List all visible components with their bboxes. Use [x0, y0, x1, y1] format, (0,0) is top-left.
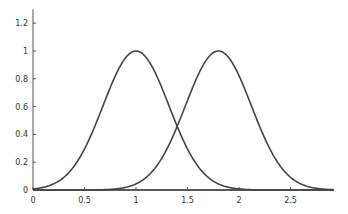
- chart: 00.20.40.60.811.200.511.522.5: [0, 0, 348, 214]
- curve-gaussian-1: [33, 51, 334, 190]
- curve-gaussian-2: [33, 51, 334, 190]
- y-tick-label: 0.4: [15, 130, 28, 139]
- y-tick-label: 0.8: [15, 75, 28, 84]
- x-tick-label: 0.5: [78, 196, 91, 205]
- y-tick-label: 1.2: [15, 19, 28, 28]
- y-tick-label: 0: [23, 186, 28, 195]
- x-tick-label: 1: [133, 196, 138, 205]
- axes: 00.20.40.60.811.200.511.522.5: [15, 9, 333, 205]
- y-tick-label: 0.2: [15, 158, 28, 167]
- x-tick-label: 1.5: [181, 196, 194, 205]
- x-tick-label: 2: [236, 196, 241, 205]
- y-tick-label: 1: [23, 47, 28, 56]
- x-tick-label: 0: [30, 196, 35, 205]
- y-tick-label: 0.6: [15, 103, 28, 112]
- x-tick-label: 2.5: [284, 196, 297, 205]
- curves: [33, 51, 334, 190]
